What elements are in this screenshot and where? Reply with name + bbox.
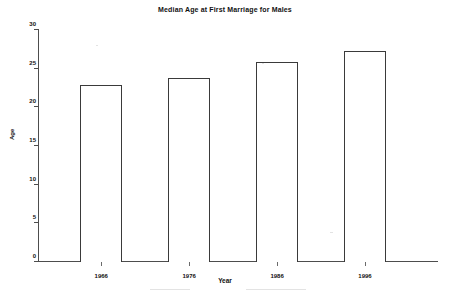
x-axis-tick [189,262,190,266]
y-axis-line [38,30,39,262]
y-axis-tick [34,261,39,262]
y-axis-tick-label: 5 [8,214,36,220]
y-axis-tick-label: 25 [8,59,36,65]
y-axis-tick [34,222,39,223]
bar-chart-figure: Median Age at First Marriage for Males A… [0,0,450,296]
scan-speckle [246,289,306,290]
y-axis-tick-label: 20 [8,98,36,104]
y-axis-tick [34,29,39,30]
y-axis-tick-label: 10 [8,175,36,181]
scan-speckle [96,45,98,46]
plot-area: 051015202530 1966197619861996 [38,30,438,262]
x-axis-tick [277,262,278,266]
y-axis-tick-label: 15 [8,137,36,143]
scan-speckle [150,289,190,290]
y-axis-tick-label: 30 [8,21,36,27]
x-axis-tick [101,262,102,266]
scan-speckle [262,63,264,64]
scan-speckle [330,232,333,233]
bar [256,62,298,262]
y-axis-tick [34,68,39,69]
y-axis-tick [34,106,39,107]
bar [344,51,386,262]
y-axis-tick [34,145,39,146]
x-axis-title: Year [0,277,450,284]
y-axis-tick [34,184,39,185]
chart-title: Median Age at First Marriage for Males [0,6,450,13]
bar [168,78,210,262]
x-axis-tick [365,262,366,266]
bar [80,85,122,262]
y-axis-tick-label: 0 [8,253,36,259]
